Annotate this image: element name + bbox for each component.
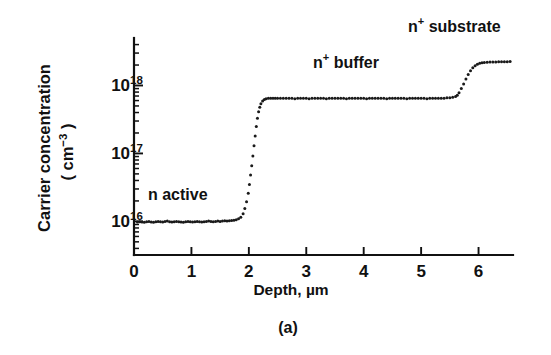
data-point xyxy=(411,97,414,100)
data-point xyxy=(503,60,506,63)
data-point xyxy=(242,212,245,215)
data-point xyxy=(417,97,420,100)
data-point xyxy=(345,97,348,100)
data-point xyxy=(276,97,279,100)
data-point xyxy=(285,97,288,100)
data-point xyxy=(359,97,362,100)
data-point xyxy=(293,97,296,100)
y-axis-title-unit-prefix: ( cm xyxy=(58,147,76,181)
data-point xyxy=(377,97,380,100)
data-point xyxy=(467,73,470,76)
y-axis-title-line1: Carrier concentration xyxy=(35,64,53,232)
data-point xyxy=(322,97,325,100)
annotation-n-active: n active xyxy=(148,186,208,203)
data-point xyxy=(365,97,368,100)
data-point xyxy=(356,97,359,100)
data-point xyxy=(245,200,248,203)
data-point xyxy=(342,97,345,100)
x-tick-label-3: 3 xyxy=(302,262,311,281)
figure-panel: 0123456 101610171018 n activen+ buffern+… xyxy=(0,0,551,355)
y-axis-title-unit-suffix: ) xyxy=(58,123,76,133)
data-point xyxy=(290,97,293,100)
data-point xyxy=(388,97,391,100)
data-point xyxy=(443,97,446,100)
data-point xyxy=(249,174,252,177)
data-point xyxy=(288,97,291,100)
data-point xyxy=(420,97,423,100)
data-point xyxy=(255,125,258,128)
data-point xyxy=(308,97,311,100)
data-point xyxy=(247,192,250,195)
data-point xyxy=(362,97,365,100)
data-point xyxy=(333,97,336,100)
x-tick-label-2: 2 xyxy=(244,262,253,281)
data-point xyxy=(259,102,262,105)
data-point xyxy=(250,164,253,167)
data-point xyxy=(397,97,400,100)
data-point xyxy=(391,97,394,100)
data-point xyxy=(434,97,437,100)
data-point xyxy=(331,97,334,100)
data-point xyxy=(486,61,489,64)
data-point xyxy=(489,61,492,64)
data-point xyxy=(491,60,494,63)
data-point xyxy=(385,97,388,100)
data-point xyxy=(471,66,474,69)
data-point xyxy=(243,207,246,210)
data-point xyxy=(431,97,434,100)
data-point xyxy=(440,97,443,100)
data-point xyxy=(509,60,512,63)
x-tick-label-0: 0 xyxy=(129,262,138,281)
y-axis-title-unit-exponent: −3 xyxy=(57,134,69,147)
data-point xyxy=(451,96,454,99)
data-point xyxy=(464,77,467,80)
data-point xyxy=(251,154,254,157)
data-point xyxy=(483,61,486,64)
data-point xyxy=(437,97,440,100)
data-point xyxy=(379,97,382,100)
data-point xyxy=(460,87,463,90)
data-point xyxy=(348,97,351,100)
data-point xyxy=(299,97,302,100)
data-point xyxy=(428,97,431,100)
data-point xyxy=(319,97,322,100)
data-point xyxy=(494,60,497,63)
data-point xyxy=(239,216,242,219)
data-point xyxy=(500,60,503,63)
data-point xyxy=(445,96,448,99)
data-point xyxy=(394,97,397,100)
data-point xyxy=(257,110,260,113)
x-tick-label-5: 5 xyxy=(416,262,425,281)
data-point xyxy=(402,97,405,100)
data-point xyxy=(506,60,509,63)
chart-background xyxy=(0,0,551,355)
data-point xyxy=(339,97,342,100)
data-point xyxy=(279,97,282,100)
data-point xyxy=(448,96,451,99)
carrier-concentration-depth-profile-chart: 0123456 101610171018 n activen+ buffern+… xyxy=(0,0,551,355)
data-point xyxy=(305,97,308,100)
data-point xyxy=(316,97,319,100)
x-axis-title: Depth, µm xyxy=(253,281,328,298)
data-point xyxy=(368,97,371,100)
figure-caption: (a) xyxy=(278,319,298,336)
data-point xyxy=(254,135,257,138)
data-point xyxy=(325,97,328,100)
data-point xyxy=(469,69,472,72)
data-point xyxy=(258,106,261,109)
data-point xyxy=(354,97,357,100)
data-point xyxy=(253,144,256,147)
data-point xyxy=(351,97,354,100)
data-point xyxy=(414,97,417,100)
data-point xyxy=(311,97,314,100)
data-point xyxy=(422,97,425,100)
data-point xyxy=(371,97,374,100)
data-point xyxy=(256,117,259,120)
data-point xyxy=(313,97,316,100)
data-point xyxy=(328,97,331,100)
data-point xyxy=(405,97,408,100)
data-point xyxy=(462,83,465,86)
x-tick-label-6: 6 xyxy=(474,262,483,281)
data-point xyxy=(374,97,377,100)
data-point xyxy=(282,97,285,100)
